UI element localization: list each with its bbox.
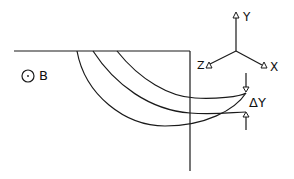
deflection-arrowhead-down-icon [243,87,249,92]
field-dot-icon [27,75,29,77]
y-axis-label: Y [243,11,250,23]
z-axis-label: Z [197,60,205,71]
deflection-label: ΔY [249,96,266,109]
x-axis-label: X [270,61,278,73]
deflection-arrowhead-up-icon [243,112,249,117]
x-axis-line [236,51,262,65]
trajectory-inner [117,51,246,98]
y-axis-arrowhead-icon [233,12,239,18]
field-label: B [39,69,48,82]
z-axis-line [208,51,236,65]
diagram-canvas [0,0,294,179]
trajectory-middle [93,51,246,114]
